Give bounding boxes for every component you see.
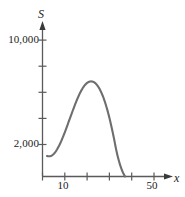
y-tick-label-2000: 2,000 — [3, 138, 39, 149]
chart-figure: S x 10,000 2,000 10 50 — [0, 0, 185, 197]
data-curve-series-s — [47, 81, 125, 176]
y-axis-label: S — [38, 8, 44, 20]
y-tick-label-10000: 10,000 — [3, 34, 39, 45]
x-tick-label-10: 10 — [54, 180, 72, 191]
x-axis-arrowhead — [164, 173, 173, 179]
x-axis-label: x — [174, 172, 179, 184]
chart-plot-area — [0, 0, 185, 197]
y-axis-arrowhead — [39, 21, 45, 30]
x-tick-label-50: 50 — [143, 180, 161, 191]
